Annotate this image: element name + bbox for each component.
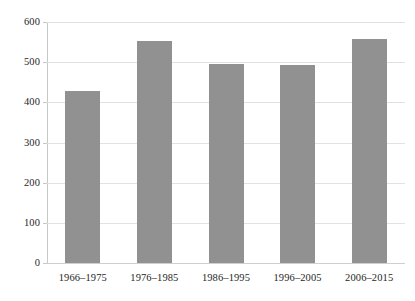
- x-axis-tick-label: 1976–1985: [119, 272, 191, 283]
- bar: [137, 41, 172, 263]
- bar: [352, 39, 387, 263]
- y-axis-tick-label: 200: [2, 178, 40, 189]
- gridline: [47, 263, 405, 264]
- y-axis-tick-label: 500: [2, 57, 40, 68]
- x-axis-tick-labels: 1966–19751976–19851986–19951996–20052006…: [47, 272, 405, 292]
- y-axis-tick-label: 0: [2, 258, 40, 269]
- bar: [280, 65, 315, 263]
- bar-chart: 6005004003002001000 1966–19751976–198519…: [0, 0, 415, 301]
- plot-area: [47, 22, 405, 263]
- y-axis-tick-label: 600: [2, 17, 40, 28]
- x-axis-tick-label: 2006–2015: [333, 272, 405, 283]
- x-axis-tick-label: 1996–2005: [262, 272, 334, 283]
- bar: [209, 64, 244, 263]
- y-axis-tick-label: 300: [2, 138, 40, 149]
- y-axis-tick-labels: 6005004003002001000: [0, 0, 40, 301]
- y-axis-tick-label: 400: [2, 97, 40, 108]
- x-axis-tick-label: 1966–1975: [47, 272, 119, 283]
- x-axis-tick-label: 1986–1995: [190, 272, 262, 283]
- gridline: [47, 22, 405, 23]
- y-axis-tick-label: 100: [2, 218, 40, 229]
- bar: [65, 91, 100, 263]
